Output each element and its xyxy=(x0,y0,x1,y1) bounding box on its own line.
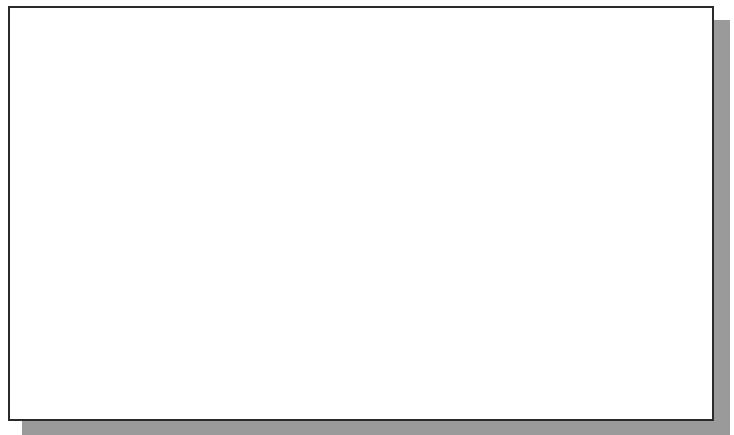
drawing-layer[interactable] xyxy=(0,0,734,435)
cad-viewport xyxy=(0,0,734,435)
